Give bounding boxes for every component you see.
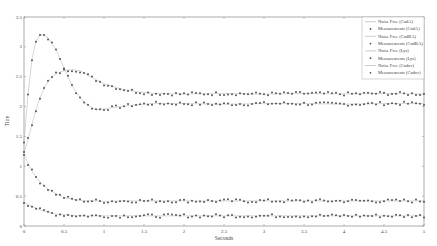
measurement-marker bbox=[135, 216, 137, 218]
measurement-marker bbox=[167, 213, 169, 215]
measurement-marker bbox=[191, 91, 193, 93]
measurement-marker bbox=[419, 200, 421, 202]
measurement-marker bbox=[183, 103, 185, 105]
measurement-marker bbox=[75, 199, 77, 201]
legend-item: Noise Free (Cadav) bbox=[378, 63, 414, 68]
measurement-marker bbox=[223, 216, 225, 218]
measurement-marker bbox=[163, 214, 165, 216]
measurement-marker bbox=[183, 199, 185, 201]
measurement-marker bbox=[63, 215, 65, 217]
measurement-marker bbox=[375, 104, 377, 106]
measurement-marker bbox=[315, 216, 317, 218]
measurement-marker bbox=[107, 217, 109, 219]
measurement-marker bbox=[155, 216, 157, 218]
measurement-marker bbox=[103, 84, 105, 86]
measurement-marker bbox=[43, 209, 45, 211]
measurement-marker bbox=[227, 94, 229, 96]
x-tick-label: 4 bbox=[343, 229, 346, 234]
measurement-marker bbox=[299, 199, 301, 201]
measurement-marker bbox=[215, 201, 217, 203]
measurement-marker bbox=[391, 102, 393, 104]
measurement-marker bbox=[71, 198, 73, 200]
measurement-marker bbox=[247, 104, 249, 106]
measurement-marker bbox=[127, 216, 129, 218]
measurement-marker bbox=[383, 200, 385, 202]
measurement-marker bbox=[343, 103, 345, 105]
measurement-marker bbox=[359, 216, 361, 218]
measurement-marker bbox=[311, 201, 313, 203]
measurement-marker bbox=[51, 42, 53, 44]
measurement-marker bbox=[343, 95, 345, 97]
measurement-marker bbox=[231, 214, 233, 216]
measurement-marker bbox=[23, 154, 25, 156]
measurement-marker bbox=[195, 92, 197, 94]
measurement-marker bbox=[151, 104, 153, 106]
legend-item: Measurements (CadA) bbox=[378, 26, 420, 31]
measurement-marker bbox=[143, 200, 145, 202]
measurement-marker bbox=[135, 104, 137, 106]
measurement-marker bbox=[387, 198, 389, 200]
measurement-marker bbox=[75, 71, 77, 73]
measurement-marker bbox=[203, 102, 205, 104]
measurement-marker bbox=[403, 92, 405, 94]
measurement-marker bbox=[327, 215, 329, 217]
measurement-marker bbox=[223, 94, 225, 96]
measurement-marker bbox=[79, 71, 81, 73]
measurement-marker bbox=[339, 200, 341, 202]
measurement-marker bbox=[139, 199, 141, 201]
measurement-marker bbox=[423, 201, 425, 203]
measurement-marker bbox=[39, 207, 41, 209]
measurement-marker bbox=[335, 214, 337, 216]
measurement-marker bbox=[167, 102, 169, 104]
measurement-marker bbox=[139, 103, 141, 105]
measurement-marker bbox=[199, 200, 201, 202]
measurement-marker bbox=[227, 103, 229, 105]
legend-item: Noise Free (CadBA) bbox=[378, 34, 416, 39]
measurement-marker bbox=[131, 89, 133, 91]
measurement-marker bbox=[51, 212, 53, 214]
legend-item: Noise Free (Lys) bbox=[378, 48, 409, 53]
measurement-marker bbox=[95, 80, 97, 82]
measurement-marker bbox=[123, 105, 125, 107]
legend-item: Measurements (Lys) bbox=[378, 56, 416, 61]
measurement-marker bbox=[163, 104, 165, 106]
measurement-marker bbox=[355, 214, 357, 216]
measurement-marker bbox=[339, 103, 341, 105]
measurement-marker bbox=[43, 87, 45, 89]
measurement-marker bbox=[331, 102, 333, 104]
measurement-marker bbox=[379, 91, 381, 93]
measurement-marker bbox=[287, 216, 289, 218]
measurement-marker bbox=[31, 206, 33, 208]
measurement-marker bbox=[315, 102, 317, 104]
measurement-marker bbox=[51, 190, 53, 192]
measurement-marker bbox=[411, 201, 413, 203]
measurement-marker bbox=[179, 199, 181, 201]
measurement-marker bbox=[191, 200, 193, 202]
line-chart: 00.511.522.533.544.55 00.511.522.533.5 S… bbox=[0, 0, 437, 246]
measurement-marker bbox=[323, 93, 325, 95]
measurement-marker bbox=[71, 70, 73, 72]
measurement-marker bbox=[175, 214, 177, 216]
measurement-marker bbox=[79, 97, 81, 99]
measurement-marker bbox=[395, 214, 397, 216]
measurement-marker bbox=[247, 201, 249, 203]
measurement-marker bbox=[131, 216, 133, 218]
measurement-marker bbox=[315, 92, 317, 94]
measurement-marker bbox=[367, 215, 369, 217]
measurement-marker bbox=[387, 94, 389, 96]
measurement-marker bbox=[91, 215, 93, 217]
measurement-marker bbox=[291, 216, 293, 218]
y-tick-label: 2.5 bbox=[16, 74, 23, 79]
y-tick-label: 1 bbox=[20, 164, 23, 169]
measurement-marker bbox=[287, 103, 289, 105]
measurement-marker bbox=[115, 88, 117, 90]
measurement-marker bbox=[123, 214, 125, 216]
measurement-marker bbox=[375, 214, 377, 216]
measurement-marker bbox=[159, 94, 161, 96]
measurement-marker bbox=[151, 94, 153, 96]
measurement-marker bbox=[211, 94, 213, 96]
measurement-marker bbox=[327, 101, 329, 103]
measurement-marker bbox=[131, 202, 133, 204]
measurement-marker bbox=[295, 103, 297, 105]
measurement-marker bbox=[367, 200, 369, 202]
